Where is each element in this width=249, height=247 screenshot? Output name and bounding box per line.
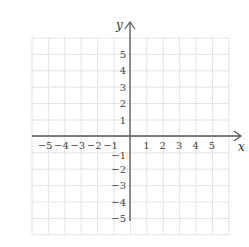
x-tick-label: −4: [54, 140, 69, 151]
x-tick-label: −3: [70, 140, 85, 151]
y-tick-label: −3: [111, 180, 126, 191]
x-tick-label: 3: [176, 140, 182, 151]
x-tick-label: 4: [192, 140, 198, 151]
x-tick-label: −2: [87, 140, 102, 151]
x-tick-label: −1: [103, 140, 118, 151]
y-axis-label: y: [115, 18, 123, 32]
y-tick-label: 2: [120, 98, 126, 109]
y-tick-label: 3: [120, 82, 126, 93]
y-tick-label: −4: [111, 197, 126, 208]
x-tick-label: −5: [38, 140, 53, 151]
y-tick-label: 4: [120, 65, 126, 76]
x-tick-label: 2: [160, 140, 166, 151]
y-tick-label: −2: [111, 164, 126, 175]
y-tick-label: 5: [120, 49, 126, 60]
y-tick-label: −1: [111, 150, 126, 161]
x-tick-label: 1: [143, 140, 149, 151]
x-tick-labels: −5−4−3−2−112345: [38, 140, 216, 151]
x-axis-label: x: [238, 140, 245, 154]
x-tick-label: 5: [209, 140, 215, 151]
y-tick-label: 1: [120, 115, 126, 126]
y-tick-label: −5: [111, 213, 126, 224]
coordinate-plane: x y −5−4−3−2−112345 54321−1−2−3−4−5: [0, 0, 249, 247]
